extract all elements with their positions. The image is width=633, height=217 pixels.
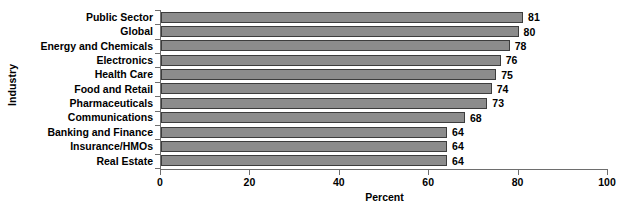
- x-axis-tick: [339, 170, 340, 175]
- category-label: Health Care: [22, 67, 157, 81]
- y-axis-tick: [155, 82, 161, 83]
- bar-row: 78: [161, 39, 608, 53]
- category-label: Pharmaceuticals: [22, 96, 157, 110]
- category-label: Banking and Finance: [22, 125, 157, 139]
- plot-area: 8180787675747368646464: [161, 10, 608, 168]
- y-axis-tick: [155, 24, 161, 25]
- category-label: Food and Retail: [22, 82, 157, 96]
- category-label: Global: [22, 24, 157, 38]
- bar-value-label: 74: [497, 84, 509, 95]
- bar: [161, 127, 447, 138]
- bar-series: 8180787675747368646464: [161, 10, 608, 168]
- bar-value-label: 64: [452, 141, 464, 152]
- bar-value-label: 78: [515, 41, 527, 52]
- y-axis-tick: [155, 67, 161, 68]
- x-axis-tick-label: 100: [598, 177, 616, 188]
- bar-value-label: 64: [452, 156, 464, 167]
- bar-row: 73: [161, 96, 608, 110]
- bar: [161, 141, 447, 152]
- bar-value-label: 64: [452, 127, 464, 138]
- bar-row: 81: [161, 10, 608, 24]
- bar-row: 80: [161, 24, 608, 38]
- bar: [161, 69, 496, 80]
- bar-value-label: 75: [501, 69, 513, 80]
- y-axis-tick: [155, 53, 161, 54]
- category-label: Electronics: [22, 53, 157, 67]
- bar-chart: Industry Public SectorGlobalEnergy and C…: [0, 0, 633, 217]
- bar: [161, 112, 465, 123]
- category-label: Communications: [22, 111, 157, 125]
- y-axis-title: Industry: [0, 0, 24, 170]
- y-axis-tick: [155, 10, 161, 11]
- x-axis-title: Percent: [161, 192, 608, 203]
- x-axis-tick: [160, 170, 161, 175]
- bar-row: 64: [161, 125, 608, 139]
- y-axis-tick: [155, 125, 161, 126]
- x-axis-tick: [518, 170, 519, 175]
- x-axis-tick-label: 0: [157, 177, 163, 188]
- category-label: Real Estate: [22, 154, 157, 168]
- y-axis-tick: [155, 39, 161, 40]
- category-label: Public Sector: [22, 10, 157, 24]
- x-axis-tick-label: 20: [244, 177, 256, 188]
- category-axis-labels: Public SectorGlobalEnergy and ChemicalsE…: [22, 10, 157, 168]
- y-axis-tick: [155, 154, 161, 155]
- y-axis-tick: [155, 139, 161, 140]
- bar-row: 64: [161, 139, 608, 153]
- bar-value-label: 73: [492, 98, 504, 109]
- bar-row: 68: [161, 111, 608, 125]
- x-axis-tick-label: 40: [333, 177, 345, 188]
- y-axis-line: [160, 10, 161, 169]
- bar-value-label: 76: [506, 55, 518, 66]
- x-axis-tick-label: 80: [512, 177, 524, 188]
- bar-row: 64: [161, 154, 608, 168]
- bar-value-label: 80: [524, 26, 536, 37]
- x-axis-tick: [249, 170, 250, 175]
- x-axis-tick-label: 60: [422, 177, 434, 188]
- bar-row: 74: [161, 82, 608, 96]
- x-axis-tick: [428, 170, 429, 175]
- y-axis-tick: [155, 168, 161, 169]
- y-axis-tick: [155, 96, 161, 97]
- x-axis-tick: [607, 170, 608, 175]
- bar-value-label: 81: [528, 12, 540, 23]
- bar: [161, 55, 501, 66]
- bar: [161, 26, 519, 37]
- category-label: Insurance/HMOs: [22, 139, 157, 153]
- y-axis-tick: [155, 111, 161, 112]
- bar: [161, 83, 492, 94]
- category-label: Energy and Chemicals: [22, 39, 157, 53]
- bar: [161, 40, 510, 51]
- bar: [161, 155, 447, 166]
- bar-value-label: 68: [470, 112, 482, 123]
- bar: [161, 12, 523, 23]
- x-axis-line: [160, 169, 608, 170]
- y-axis-title-label: Industry: [6, 64, 18, 106]
- bar-row: 76: [161, 53, 608, 67]
- bar: [161, 98, 487, 109]
- bar-row: 75: [161, 67, 608, 81]
